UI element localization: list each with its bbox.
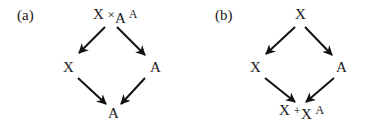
node-a-top: X ×A A — [93, 7, 137, 22]
node-a-left: X — [63, 60, 74, 75]
node-b-bottom-sub: X — [301, 106, 312, 122]
panel-label-b: (b) — [215, 8, 233, 23]
arrow-a-top-left — [79, 27, 105, 53]
node-a-top-right: A — [129, 7, 138, 21]
node-b-top: X — [295, 7, 306, 22]
arrow-a-right-bottom — [121, 78, 145, 104]
node-b-bottom: X +X A — [279, 103, 324, 118]
node-a-top-left: X — [93, 6, 104, 22]
panel-label-a: (a) — [17, 8, 34, 23]
node-a-top-op: × — [108, 7, 115, 22]
node-b-bottom-left: X — [279, 102, 290, 118]
arrow-a-left-bottom — [78, 78, 106, 104]
node-b-bottom-right: A — [316, 103, 325, 117]
node-b-right: A — [336, 60, 347, 75]
arrow-b-top-left — [266, 27, 295, 54]
node-b-left: X — [250, 60, 261, 75]
node-b-bottom-op: + — [294, 103, 301, 118]
arrow-a-top-right — [117, 27, 145, 55]
arrow-b-left-bottom — [265, 78, 295, 102]
node-a-top-sub: A — [115, 10, 125, 26]
arrow-b-top-right — [305, 27, 332, 55]
node-a-right: A — [150, 60, 161, 75]
arrow-b-right-bottom — [306, 78, 334, 102]
node-a-bottom: A — [108, 106, 119, 121]
